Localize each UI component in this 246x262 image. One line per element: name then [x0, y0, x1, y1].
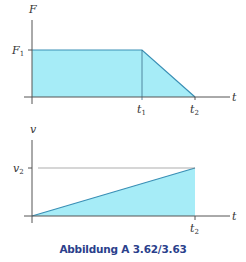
v2-tick-label: v2	[13, 162, 24, 176]
f1-tick-label: F1	[11, 44, 24, 58]
t2-tick-label-bottom: t2	[190, 222, 199, 236]
t-axis-label-top: t	[232, 91, 237, 104]
force-area	[32, 50, 195, 97]
v-axis-label: v	[30, 123, 37, 136]
t1-tick-label: t1	[137, 103, 146, 117]
figure-caption: Abbildung A 3.62/3.63	[0, 243, 246, 255]
f-axis-label: F	[28, 3, 37, 16]
t2-tick-label-top: t2	[190, 103, 199, 117]
figure: F t F1 t1 t2 v t v2 t2	[0, 0, 246, 262]
t-axis-label-bottom: t	[232, 210, 237, 223]
force-time-plot: F t F1 t1 t2	[11, 3, 237, 117]
velocity-time-plot: v t v2 t2	[13, 123, 237, 236]
